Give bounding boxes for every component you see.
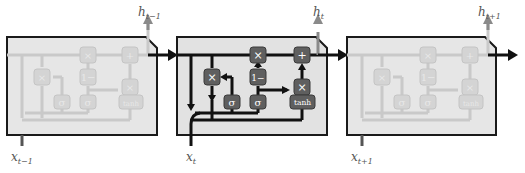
op-add: + <box>294 47 310 63</box>
op-sigma-update: σ <box>250 95 266 109</box>
svg-text:σ: σ <box>255 97 262 108</box>
label-x-t-plus-1: xt+1 <box>351 150 373 166</box>
svg-text:1−: 1− <box>421 72 436 83</box>
svg-text:σ: σ <box>229 97 236 108</box>
cell-t-plus-1: ×+ ×1− × σσ tanh <box>347 14 496 146</box>
svg-text:×: × <box>424 50 432 61</box>
svg-text:1−: 1− <box>251 73 264 83</box>
svg-text:σ: σ <box>399 97 406 108</box>
svg-text:+: + <box>126 50 134 61</box>
label-h-t: ht <box>313 5 325 21</box>
svg-text:×: × <box>207 71 216 84</box>
label-h-t-minus-1: ht−1 <box>138 5 161 21</box>
svg-text:σ: σ <box>59 97 66 108</box>
svg-text:×: × <box>378 72 386 83</box>
svg-text:×: × <box>38 72 46 83</box>
svg-text:σ: σ <box>425 97 432 108</box>
label-x-t-minus-1: xt−1 <box>11 150 33 166</box>
svg-text:×: × <box>466 82 474 93</box>
svg-text:1−: 1− <box>81 72 96 83</box>
op-update-multiply: × <box>294 79 310 95</box>
op-sigma-reset: σ <box>224 95 240 109</box>
svg-text:σ: σ <box>85 97 92 108</box>
svg-text:+: + <box>466 50 474 61</box>
svg-text:+: + <box>297 49 306 62</box>
op-reset-multiply: × <box>204 69 220 85</box>
svg-text:tanh: tanh <box>294 98 311 107</box>
gru-diagram: ×+ ×1− × σσ tanh <box>0 0 525 173</box>
op-tanh: tanh <box>290 95 315 109</box>
svg-text:×: × <box>126 82 134 93</box>
svg-text:×: × <box>253 49 262 62</box>
svg-text:×: × <box>297 81 306 94</box>
svg-text:tanh: tanh <box>463 100 479 108</box>
label-h-t-plus-1: ht+1 <box>478 5 501 21</box>
svg-text:tanh: tanh <box>123 100 139 108</box>
op-forget-multiply: × <box>250 47 266 63</box>
cell-t: × + × 1− × σ σ tanh <box>177 14 327 146</box>
label-x-t: xt <box>186 150 197 166</box>
svg-text:×: × <box>84 50 92 61</box>
cell-t-minus-1: ×+ ×1− × σσ tanh <box>7 14 157 146</box>
arrow-right-icon <box>508 49 518 61</box>
op-one-minus: 1− <box>250 69 266 85</box>
